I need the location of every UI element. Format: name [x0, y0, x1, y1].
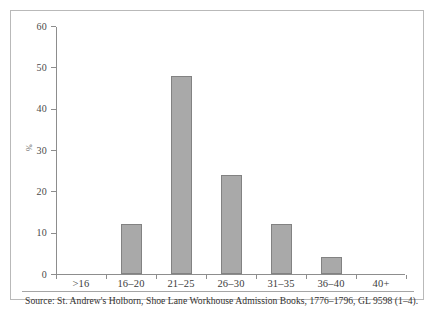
y-axis-tick: 60 — [51, 26, 56, 27]
x-axis-label: >16 — [56, 277, 106, 291]
x-axis-tick — [406, 275, 407, 279]
x-axis-line — [56, 274, 405, 275]
y-axis-tick-label: 0 — [42, 270, 47, 280]
caption-divider — [22, 291, 414, 292]
x-axis-label: 31–35 — [256, 277, 306, 291]
bar — [271, 224, 292, 274]
x-axis-label: 21–25 — [156, 277, 206, 291]
y-axis-tick-label: 30 — [37, 146, 47, 156]
bar — [321, 257, 342, 274]
bar — [221, 175, 242, 274]
bar — [121, 224, 142, 274]
y-axis-tick: 50 — [51, 67, 56, 68]
y-axis-tick-label: 50 — [37, 63, 47, 73]
figure-frame: 0102030405060 % >1616–2021–2526–3031–353… — [10, 10, 424, 300]
y-axis-tick-label: 60 — [37, 22, 47, 32]
y-axis-tick-label: 10 — [37, 228, 47, 238]
x-axis-label: 26–30 — [206, 277, 256, 291]
y-axis-tick: 20 — [51, 191, 56, 192]
y-axis-tick-label: 40 — [37, 104, 47, 114]
plot-area: 0102030405060 — [56, 19, 406, 275]
x-axis-label: 36–40 — [306, 277, 356, 291]
x-axis-label: 40+ — [356, 277, 406, 291]
source-caption: Source: St. Andrew's Holborn, Shoe Lane … — [25, 294, 415, 307]
x-axis-label: 16–20 — [106, 277, 156, 291]
y-axis-title: % — [25, 144, 34, 151]
bar — [171, 76, 192, 274]
y-axis-tick: 30 — [51, 150, 56, 151]
y-axis-tick: 10 — [51, 233, 56, 234]
y-axis-tick-label: 20 — [37, 187, 47, 197]
y-axis-line — [56, 27, 57, 275]
y-axis-tick: 40 — [51, 109, 56, 110]
